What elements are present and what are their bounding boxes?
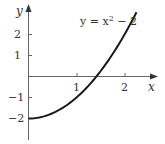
y-axis-label: y bbox=[15, 4, 23, 18]
equation-label: y = x2 − 2 bbox=[79, 14, 137, 28]
x-axis-arrow-icon bbox=[150, 74, 158, 80]
y-tick-label-m2: −2 bbox=[8, 112, 24, 125]
y-tick-label-2: 2 bbox=[14, 28, 21, 41]
x-axis-label: x bbox=[148, 80, 155, 94]
y-tick-label-m1: −1 bbox=[8, 91, 24, 104]
function-plot: y x 1 2 2 1 −1 −2 y = x2 − 2 bbox=[0, 0, 165, 144]
x-tick-label-1: 1 bbox=[73, 81, 80, 94]
x-tick-label-2: 2 bbox=[121, 81, 128, 94]
y-axis-arrow-icon bbox=[26, 4, 32, 12]
parabola-curve bbox=[29, 12, 137, 118]
y-tick-label-1: 1 bbox=[14, 49, 21, 62]
